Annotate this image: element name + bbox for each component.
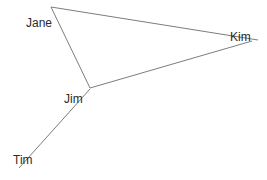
node-label-jane: Jane <box>26 17 52 29</box>
node-label-kim: Kim <box>230 31 251 43</box>
graph-canvas: Jane Kim Jim Tim <box>0 0 267 180</box>
node-label-jim: Jim <box>64 93 83 105</box>
edge-jim-kim <box>90 41 252 88</box>
node-label-tim: Tim <box>13 154 33 166</box>
edge-jane-kim <box>51 7 258 40</box>
edge-jane-jim <box>51 7 90 88</box>
